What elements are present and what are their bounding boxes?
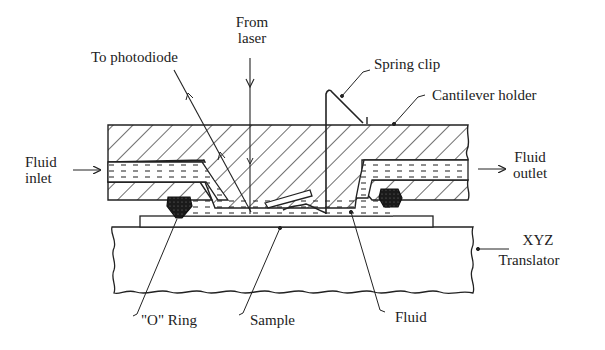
label-o-ring: "O" Ring [141,312,197,328]
xyz-translator [112,227,474,293]
label-cantilever-holder: Cantilever holder [432,87,537,103]
label-fluid-outlet-line2: outlet [507,165,553,181]
label-from-laser-line1: From [224,14,280,30]
label-fluid: Fluid [395,309,427,325]
label-xyz-line1: XYZ [484,232,574,248]
sample [140,216,433,227]
label-xyz-line2: Translator [484,248,574,268]
label-spring-clip: Spring clip [374,56,440,72]
label-fluid-inlet-line1: Fluid [25,154,57,170]
label-fluid-inlet: Fluid inlet [25,154,57,186]
label-fluid-outlet: Fluid outlet [507,149,553,181]
label-to-photodiode: To photodiode [91,49,178,65]
label-sample: Sample [250,312,295,328]
label-from-laser-line2: laser [224,30,280,46]
o-ring-right [379,189,402,207]
label-fluid-outlet-line1: Fluid [507,149,553,165]
label-fluid-inlet-line2: inlet [25,170,57,186]
label-xyz-translator: XYZ Translator [484,232,574,268]
afm-fluid-cell-diagram: To photodiode From laser Spring clip Can… [0,0,605,350]
label-from-laser: From laser [224,14,280,46]
